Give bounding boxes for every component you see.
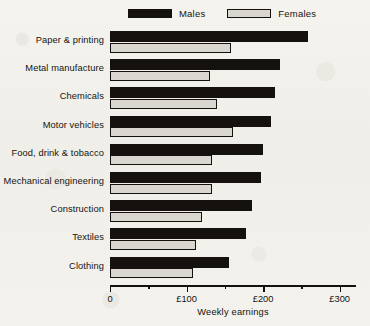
- category-label: Mechanical engineering: [0, 176, 104, 186]
- category-label: Motor vehicles: [0, 120, 104, 130]
- x-tick-label: £100: [176, 294, 197, 304]
- bar-females: [110, 99, 217, 109]
- bar-group: [110, 228, 355, 252]
- bar-group: [110, 257, 355, 281]
- bar-females: [110, 212, 202, 222]
- x-tick-label: 0: [107, 294, 112, 304]
- x-tick-minor: [301, 285, 302, 289]
- x-tick-major: [187, 285, 188, 292]
- category-label: Clothing: [0, 261, 104, 271]
- legend-item-males: Males: [128, 8, 205, 19]
- bar-males: [110, 87, 275, 98]
- legend-swatch-females-icon: [227, 9, 271, 18]
- x-tick-minor: [225, 285, 226, 289]
- legend-label-males: Males: [179, 8, 205, 19]
- x-tick-major: [263, 285, 264, 292]
- bar-group: [110, 144, 355, 168]
- bar-females: [110, 43, 231, 53]
- bar-males: [110, 257, 229, 268]
- bar-group: [110, 31, 355, 55]
- bar-females: [110, 155, 212, 165]
- bar-rows: [110, 30, 355, 285]
- bar-group: [110, 172, 355, 196]
- x-tick-major: [110, 285, 111, 292]
- x-tick-minor: [148, 285, 149, 289]
- bar-females: [110, 240, 196, 250]
- x-tick-label: £300: [329, 294, 350, 304]
- bar-females: [110, 127, 233, 137]
- bar-females: [110, 184, 212, 194]
- bar-males: [110, 116, 271, 127]
- plot-area: [110, 30, 355, 285]
- bar-females: [110, 71, 210, 81]
- category-label: Metal manufacture: [0, 63, 104, 73]
- bar-group: [110, 116, 355, 140]
- bar-males: [110, 31, 308, 42]
- bar-males: [110, 172, 261, 183]
- legend-swatch-males-icon: [128, 9, 172, 18]
- category-label: Construction: [0, 204, 104, 214]
- category-label: Chemicals: [0, 91, 104, 101]
- x-tick-label: £200: [253, 294, 274, 304]
- x-tick-major: [340, 285, 341, 292]
- category-label: Textiles: [0, 232, 104, 242]
- bar-group: [110, 200, 355, 224]
- category-label: Paper & printing: [0, 35, 104, 45]
- bar-group: [110, 59, 355, 83]
- x-axis-title: Weekly earnings: [110, 307, 356, 317]
- category-label: Food, drink & tobacco: [0, 148, 104, 158]
- bar-group: [110, 87, 355, 111]
- grouped-bar-chart: Males Females Paper & printingMetal manu…: [0, 0, 370, 326]
- bar-males: [110, 228, 246, 239]
- bar-males: [110, 200, 252, 211]
- bar-males: [110, 144, 263, 155]
- x-axis-line: [110, 285, 356, 287]
- bar-females: [110, 268, 193, 278]
- legend-item-females: Females: [227, 8, 316, 19]
- chart-legend: Males Females: [128, 8, 316, 19]
- bar-males: [110, 59, 280, 70]
- legend-label-females: Females: [278, 8, 316, 19]
